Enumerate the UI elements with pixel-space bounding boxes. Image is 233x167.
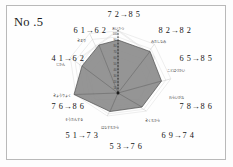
scale-tick-40: 40	[114, 69, 117, 72]
screenshot-root: No .5	[0, 0, 233, 167]
value-label-jikan: 4 1→6 2	[51, 54, 84, 63]
axis-label-kotobazukai: ことばづかい	[167, 68, 185, 73]
value-label-waraigao: 7 8→8 6	[179, 102, 212, 111]
value-label-kikuchikara: 6 9→7 4	[161, 131, 194, 140]
scale-tick-90: 90	[114, 39, 117, 42]
axis-label-waraigao: わらいがお	[169, 95, 184, 100]
scale-tick-80: 80	[114, 45, 117, 48]
scale-tick-30: 30	[114, 75, 117, 78]
value-label-kyouryoku: 7 6→8 6	[51, 102, 84, 111]
value-label-hanasuchikara: 5 3→7 6	[109, 142, 142, 151]
axis-label-midashinami: みだしなみ	[151, 39, 166, 44]
value-label-soudansuru: 5 1→7 3	[65, 131, 98, 140]
axis-label-kikuchikara: きくちから	[145, 118, 160, 123]
scale-tick-60: 60	[114, 57, 117, 60]
center-marker	[117, 92, 120, 95]
value-label-midashinami: 8 2→8 2	[158, 26, 191, 35]
axis-label-kimari: きまり	[77, 38, 86, 43]
value-label-aisatsu: 7 2→8 5	[107, 10, 140, 19]
scale-tick-10: 10	[114, 87, 117, 90]
value-label-kotobazukai: 6 5→8 5	[179, 54, 212, 63]
scale-tick-100: 100	[113, 33, 117, 36]
scale-tick-70: 70	[114, 51, 117, 54]
value-label-kimari: 6 1→6 2	[73, 26, 106, 35]
axis-label-kyouryoku: きょうりょく	[53, 93, 71, 98]
scale-tick-20: 20	[114, 81, 117, 84]
axis-label-aisatsu: あいさつ	[112, 26, 124, 31]
scale-tick-50: 50	[114, 63, 117, 66]
axis-label-soudansuru: そうだんする	[65, 117, 83, 122]
axis-label-hanasuchikara: はなすちから	[101, 125, 119, 130]
